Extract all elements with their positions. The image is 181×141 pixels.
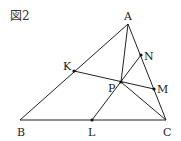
point-K (72, 69, 75, 72)
label-P: P (108, 82, 116, 95)
label-A: A (123, 10, 133, 23)
geometry-diagram: ABCKLMNP (0, 0, 181, 141)
label-L: L (88, 126, 96, 139)
point-P (119, 80, 122, 83)
point-N (139, 53, 142, 56)
label-N: N (144, 50, 154, 63)
label-B: B (17, 126, 25, 139)
segment-CA (128, 24, 166, 120)
point-L (90, 118, 93, 121)
label-M: M (157, 83, 168, 96)
segment-LN (92, 55, 141, 120)
point-M (152, 87, 155, 90)
label-C: C (163, 126, 171, 139)
label-K: K (63, 60, 72, 73)
